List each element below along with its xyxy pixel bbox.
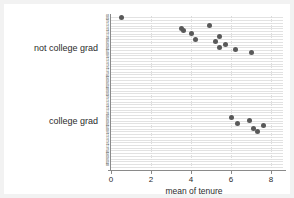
gridline-row: [111, 148, 283, 149]
data-point: [213, 39, 218, 44]
gridline-row: [111, 42, 283, 43]
gridline-row: [111, 72, 283, 73]
gridline-row: [111, 104, 283, 105]
gridline-row: [111, 156, 283, 157]
gridline-row: [111, 145, 283, 146]
y-axis-tick-label: 88: [106, 165, 109, 168]
gridline-column: [271, 16, 272, 168]
gridline-row: [111, 66, 283, 67]
gridline-row: [111, 121, 283, 122]
gridline-row: [111, 167, 283, 168]
x-axis-tick-label: 0: [109, 175, 113, 184]
data-point: [217, 45, 222, 50]
group-label-college-grad: college grad: [49, 116, 98, 126]
data-point: [207, 23, 212, 28]
data-point: [235, 121, 240, 126]
x-axis-tick-mark: [231, 171, 232, 174]
x-axis-line: [108, 170, 286, 171]
x-axis-tick-mark: [151, 171, 152, 174]
gridline-row: [111, 88, 283, 89]
plot-area: [111, 16, 283, 168]
x-axis-tick-label: 8: [269, 175, 273, 184]
gridline-row: [111, 159, 283, 160]
data-point: [249, 50, 254, 55]
gridline-row: [111, 150, 283, 151]
gridline-row: [111, 118, 283, 119]
gridline-row: [111, 153, 283, 154]
gridline-row: [111, 140, 283, 141]
gridline-column: [231, 16, 232, 168]
x-axis-tick-label: 2: [149, 175, 153, 184]
gridline-row: [111, 110, 283, 111]
y-axis-tick-labels: 6869707172737577788082838587887071727375…: [96, 16, 110, 168]
chart-card: not college grad college grad 6869707172…: [4, 4, 290, 194]
gridline-row: [111, 123, 283, 124]
gridline-row: [111, 126, 283, 127]
data-point: [189, 31, 194, 36]
gridline-row: [111, 47, 283, 48]
gridline-row: [111, 134, 283, 135]
gridline-row: [111, 115, 283, 116]
data-point: [255, 129, 260, 134]
gridline-row: [111, 93, 283, 94]
gridline-row: [111, 26, 283, 27]
gridline-column: [151, 16, 152, 168]
gridline-row: [111, 20, 283, 21]
data-point: [119, 15, 124, 20]
data-point: [193, 37, 198, 42]
gridline-row: [111, 61, 283, 62]
gridline-row: [111, 53, 283, 54]
data-point: [217, 34, 222, 39]
gridline-row: [111, 58, 283, 59]
gridline-row: [111, 50, 283, 51]
gridline-column: [191, 16, 192, 168]
gridline-row: [111, 83, 283, 84]
gridline-row: [111, 107, 283, 108]
data-point: [229, 115, 234, 120]
gridline-row: [111, 17, 283, 18]
gridline-row: [111, 74, 283, 75]
gridline-row: [111, 31, 283, 32]
x-axis-title: mean of tenure: [4, 186, 294, 196]
chart-canvas: not college grad college grad 6869707172…: [0, 0, 294, 198]
gridline-row: [111, 34, 283, 35]
x-axis-tick-label: 4: [189, 175, 193, 184]
gridline-row: [111, 142, 283, 143]
gridline-row: [111, 45, 283, 46]
data-point: [247, 118, 252, 123]
gridline-row: [111, 80, 283, 81]
gridline-row: [111, 55, 283, 56]
gridline-row: [111, 64, 283, 65]
group-label-not-college-grad: not college grad: [34, 43, 98, 53]
gridline-row: [111, 161, 283, 162]
x-axis-tick-label: 6: [229, 175, 233, 184]
gridline-row: [111, 96, 283, 97]
x-axis-tick-mark: [271, 171, 272, 174]
gridline-row: [111, 102, 283, 103]
gridline-row: [111, 85, 283, 86]
gridline-row: [111, 91, 283, 92]
gridline-row: [111, 28, 283, 29]
gridline-row: [111, 77, 283, 78]
gridline-row: [111, 69, 283, 70]
gridline-row: [111, 164, 283, 165]
gridline-row: [111, 23, 283, 24]
gridline-row: [111, 99, 283, 100]
x-axis-tick-mark: [191, 171, 192, 174]
gridline-row: [111, 112, 283, 113]
gridline-row: [111, 137, 283, 138]
x-axis-tick-mark: [111, 171, 112, 174]
data-point: [223, 42, 228, 47]
y-axis-line: [110, 14, 111, 170]
